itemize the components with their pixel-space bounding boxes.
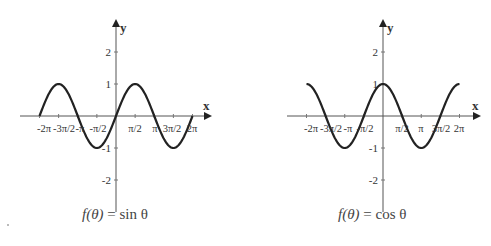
y-tick-label: 1 (373, 78, 379, 90)
y-tick-label: -2 (102, 174, 111, 186)
cosine-caption: f(θ) = cos θ (338, 206, 406, 223)
x-tick-labels: -2π -3π/2 -π -π/2 π/2 π 3π/2 2π (304, 123, 465, 134)
x-tick-label: -π (76, 123, 85, 134)
caption-lhs: f(θ) (82, 206, 104, 222)
y-axis-arrow-icon (379, 19, 387, 27)
caption-equals: = (363, 206, 371, 222)
sine-caption: f(θ) = sin θ (82, 206, 148, 223)
y-axis-label: y (387, 20, 394, 35)
y-tick-label: 1 (106, 78, 112, 90)
x-tick-label: -2π (304, 123, 319, 134)
y-tick-label: -2 (369, 174, 378, 186)
y-tick-label: 2 (106, 46, 112, 58)
x-tick-label: -π/2 (357, 123, 374, 134)
x-tick-label: -π (344, 123, 353, 134)
stray-dot (7, 224, 9, 226)
x-tick-label: π (418, 123, 424, 134)
x-axis-label: x (472, 98, 479, 113)
x-tick-label: 2π (454, 123, 465, 134)
x-tick-label: -3π/2 (53, 123, 75, 134)
y-tick-label: -1 (369, 142, 378, 154)
caption-lhs: f(θ) (338, 206, 360, 222)
x-tick-label: 3π/2 (432, 123, 451, 134)
y-tick-label: -1 (102, 142, 111, 154)
x-axis-arrow-icon (204, 112, 212, 120)
x-tick-labels: -2π -3π/2 -π -π/2 π/2 π 3π/2 2π (37, 123, 198, 134)
caption-equals: = (107, 206, 115, 222)
y-axis-arrow-icon (112, 19, 120, 27)
x-tick-label: π/2 (395, 123, 408, 134)
x-tick-label: 2π (187, 123, 198, 134)
y-tick-label: 2 (373, 46, 379, 58)
cosine-axes (287, 26, 475, 212)
caption-rhs: sin θ (120, 206, 148, 222)
x-tick-label: -π/2 (90, 123, 107, 134)
x-tick-label: 3π/2 (163, 123, 182, 134)
y-axis-label: y (120, 20, 127, 35)
x-tick-label: π/2 (128, 123, 141, 134)
x-axis-arrow-icon (473, 112, 481, 120)
x-tick-label: -2π (37, 123, 52, 134)
caption-rhs: cos θ (376, 206, 407, 222)
sine-axes (20, 26, 206, 212)
x-axis-label: x (203, 98, 210, 113)
x-tick-label: -3π/2 (320, 123, 342, 134)
x-tick-label: π (152, 123, 158, 134)
